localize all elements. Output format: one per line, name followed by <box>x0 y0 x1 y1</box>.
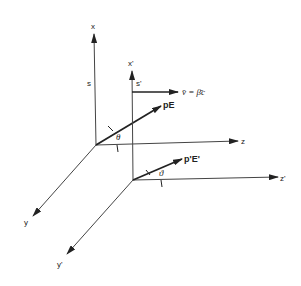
momentum-vector-pE-prime <box>133 159 182 180</box>
x-axis <box>94 34 96 145</box>
momentum-vector-pE <box>96 106 161 145</box>
momentum-label-pE-prime: p'E' <box>184 154 200 164</box>
frame-s-prime-label: s' <box>136 79 142 88</box>
z-axis-label: z <box>241 137 245 146</box>
velocity-label: v̄ = β̄c <box>182 87 205 97</box>
y-prime-axis <box>67 180 133 254</box>
angle-tick-icon <box>161 180 162 187</box>
y-axis <box>33 145 96 216</box>
angle-tick-icon <box>117 145 118 152</box>
x-prime-axis <box>132 71 133 180</box>
relativity-frames-diagram: x z y s pE θ x' z' y' s' p'E' ϑ v̄ = β̄c <box>0 0 301 286</box>
z-prime-axis-label: z' <box>280 174 286 183</box>
momentum-label-pE: pE <box>163 100 175 110</box>
z-prime-axis <box>133 177 278 180</box>
y-axis-label: y <box>24 218 28 227</box>
frame-s-prime <box>67 71 278 254</box>
angle-phi-label: ϑ <box>159 168 164 178</box>
x-axis-label: x <box>91 22 95 31</box>
x-prime-axis-label: x' <box>128 59 134 68</box>
frame-s <box>33 34 238 216</box>
y-prime-axis-label: y' <box>57 260 63 269</box>
angle-tick-icon <box>108 126 113 131</box>
angle-theta-label: θ <box>116 132 121 142</box>
frame-s-label: s <box>87 79 91 88</box>
